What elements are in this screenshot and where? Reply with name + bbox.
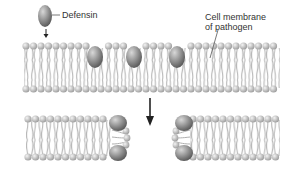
pore-defensin-bottom-right xyxy=(175,145,193,161)
diagram-canvas xyxy=(0,0,300,183)
pore-defensin-top-right xyxy=(175,115,193,131)
embedded-defensin-3 xyxy=(169,46,185,68)
transition-arrow xyxy=(146,98,154,126)
defensin-diagram: Defensin Cell membrane of pathogen xyxy=(0,0,300,183)
defensin-label: Defensin xyxy=(62,10,98,20)
free-defensin xyxy=(38,5,60,38)
embedded-defensin-2 xyxy=(126,46,142,68)
membrane-fragment-right xyxy=(172,115,280,161)
pore-defensin-bottom-left xyxy=(109,145,127,161)
embedded-defensin-1 xyxy=(87,46,103,68)
membrane-label-line1: Cell membrane xyxy=(205,12,266,22)
pathogen-membrane-intact xyxy=(22,30,280,93)
defensin-icon xyxy=(38,5,52,27)
pore-defensin-top-left xyxy=(109,115,127,131)
down-arrow-icon xyxy=(146,116,154,126)
membrane-label-line2: of pathogen xyxy=(205,22,253,32)
small-arrowhead-icon xyxy=(44,34,49,38)
membrane-fragment-left xyxy=(24,115,130,161)
